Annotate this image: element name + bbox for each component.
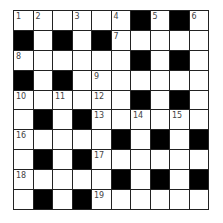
crossword-cell[interactable]: 14	[131, 110, 150, 129]
crossword-cell[interactable]	[53, 130, 72, 149]
crossword-cell[interactable]	[190, 110, 209, 129]
crossword-cell[interactable]	[112, 110, 131, 129]
crossword-cell[interactable]: 2	[34, 11, 53, 30]
clue-number: 15	[172, 111, 182, 120]
crossword-cell[interactable]	[53, 11, 72, 30]
crossword-cell[interactable]	[34, 51, 53, 70]
crossword-cell[interactable]	[170, 150, 189, 169]
crossword-cell[interactable]	[92, 51, 111, 70]
crossword-cell[interactable]	[131, 190, 150, 209]
crossword-cell[interactable]	[14, 190, 33, 209]
crossword-cell[interactable]: 1	[14, 11, 33, 30]
crossword-cell[interactable]	[53, 150, 72, 169]
crossword-cell[interactable]: 7	[112, 31, 131, 50]
clue-number: 2	[36, 12, 41, 21]
crossword-cell[interactable]: 8	[14, 51, 33, 70]
crossword-cell[interactable]	[190, 91, 209, 110]
crossword-cell[interactable]	[170, 71, 189, 90]
crossword-cell[interactable]	[34, 130, 53, 149]
block-cell	[73, 110, 92, 129]
crossword-cell[interactable]: 5	[151, 11, 170, 30]
crossword-cell[interactable]	[170, 31, 189, 50]
crossword-cell[interactable]	[73, 130, 92, 149]
crossword-cell[interactable]	[53, 110, 72, 129]
crossword-cell[interactable]: 4	[112, 11, 131, 30]
crossword-cell[interactable]	[190, 51, 209, 70]
crossword-cell[interactable]: 3	[73, 11, 92, 30]
crossword-cell[interactable]	[53, 190, 72, 209]
clue-number: 3	[75, 12, 80, 21]
block-cell	[170, 51, 189, 70]
crossword-cell[interactable]	[151, 51, 170, 70]
clue-number: 4	[114, 12, 119, 21]
crossword-cell[interactable]	[14, 110, 33, 129]
crossword-cell[interactable]	[151, 71, 170, 90]
crossword-cell[interactable]	[73, 91, 92, 110]
clue-number: 14	[133, 111, 143, 120]
crossword-cell[interactable]: 17	[92, 150, 111, 169]
block-cell	[151, 130, 170, 149]
crossword-cell[interactable]	[190, 150, 209, 169]
crossword-cell[interactable]	[92, 11, 111, 30]
crossword-cell[interactable]	[151, 150, 170, 169]
crossword-cell[interactable]: 9	[92, 71, 111, 90]
block-cell	[34, 190, 53, 209]
crossword-cell[interactable]: 19	[92, 190, 111, 209]
block-cell	[34, 150, 53, 169]
clue-number: 16	[16, 131, 26, 140]
crossword-cell[interactable]	[92, 130, 111, 149]
crossword-cell[interactable]	[131, 71, 150, 90]
crossword-cell[interactable]	[190, 71, 209, 90]
crossword-cell[interactable]	[34, 71, 53, 90]
crossword-cell[interactable]	[112, 190, 131, 209]
crossword-cell[interactable]	[14, 150, 33, 169]
crossword-cell[interactable]: 10	[14, 91, 33, 110]
crossword-cell[interactable]: 16	[14, 130, 33, 149]
clue-number: 9	[94, 72, 99, 81]
crossword-cell[interactable]	[131, 31, 150, 50]
crossword-cell[interactable]: 6	[190, 11, 209, 30]
crossword-cell[interactable]	[112, 91, 131, 110]
crossword-cell[interactable]	[34, 170, 53, 189]
block-cell	[131, 91, 150, 110]
crossword-cell[interactable]: 15	[170, 110, 189, 129]
crossword-cell[interactable]: 11	[53, 91, 72, 110]
crossword-cell[interactable]	[170, 130, 189, 149]
crossword-cell[interactable]: 18	[14, 170, 33, 189]
block-cell	[92, 31, 111, 50]
block-cell	[151, 170, 170, 189]
crossword-cell[interactable]	[73, 170, 92, 189]
clue-number: 17	[94, 151, 104, 160]
crossword-cell[interactable]	[131, 150, 150, 169]
crossword-cell[interactable]: 13	[92, 110, 111, 129]
crossword-cell[interactable]	[53, 51, 72, 70]
clue-number: 1	[16, 12, 21, 21]
crossword-cell[interactable]	[34, 91, 53, 110]
crossword-cell[interactable]	[190, 190, 209, 209]
crossword-cell[interactable]	[112, 71, 131, 90]
crossword-cell[interactable]	[151, 190, 170, 209]
crossword-cell[interactable]	[112, 150, 131, 169]
crossword-cell[interactable]	[73, 71, 92, 90]
crossword-cell[interactable]	[53, 170, 72, 189]
crossword-cell[interactable]	[92, 170, 111, 189]
clue-number: 6	[192, 12, 197, 21]
crossword-cell[interactable]	[112, 51, 131, 70]
block-cell	[73, 190, 92, 209]
crossword-cell[interactable]	[131, 170, 150, 189]
crossword-cell[interactable]	[151, 31, 170, 50]
crossword-cell[interactable]	[73, 31, 92, 50]
clue-number: 11	[55, 92, 65, 101]
clue-number: 5	[153, 12, 158, 21]
crossword-cell[interactable]	[131, 130, 150, 149]
crossword-cell[interactable]	[170, 170, 189, 189]
crossword-cell[interactable]	[151, 91, 170, 110]
crossword-cell[interactable]	[73, 51, 92, 70]
crossword-cell[interactable]	[34, 31, 53, 50]
crossword-cell[interactable]	[151, 110, 170, 129]
crossword-cell[interactable]	[170, 190, 189, 209]
crossword-cell[interactable]: 12	[92, 91, 111, 110]
crossword-cell[interactable]	[190, 31, 209, 50]
block-cell	[190, 130, 209, 149]
block-cell	[170, 91, 189, 110]
